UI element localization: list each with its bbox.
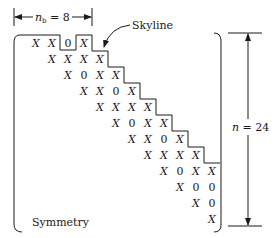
matrix-entry: X — [127, 85, 137, 98]
bandwidth-dimension: nb = 8 — [14, 8, 92, 26]
matrix-entry: X — [191, 165, 201, 178]
matrix-entry: X — [143, 133, 153, 146]
right-matrix-bracket — [112, 33, 120, 40]
right-bracket-visible — [114, 33, 121, 231]
matrix-entry: X — [95, 69, 105, 82]
matrix-entry: 0 — [81, 69, 88, 82]
matrix-entry: X — [79, 53, 89, 66]
matrix-entry: X — [111, 101, 121, 114]
matrix-entry: 0 — [209, 181, 216, 194]
matrix-entry: X — [191, 197, 201, 210]
matrix-entry: X — [143, 117, 153, 130]
matrix-entry: X — [159, 165, 169, 178]
matrix-entry: X — [175, 133, 185, 146]
matrix-entry: X — [191, 149, 201, 162]
matrix-entry: 0 — [177, 165, 184, 178]
right-bracket-line — [114, 33, 121, 40]
matrix-entry: 0 — [129, 117, 136, 130]
matrix-entries: XX0XXXXXX0XXXX0XXXXXX0XXXX0XXXXXX0XXX00X… — [31, 37, 217, 226]
matrix-entry: X — [127, 101, 137, 114]
matrix-entry: X — [175, 181, 185, 194]
matrix-entry: X — [143, 101, 153, 114]
matrix-entry: X — [175, 149, 185, 162]
bandwidth-label: nb = 8 — [35, 11, 70, 25]
matrix-entry: X — [207, 165, 217, 178]
matrix-entry: X — [79, 85, 89, 98]
matrix-entry: X — [143, 149, 153, 162]
matrix-entry: X — [63, 53, 73, 66]
matrix-entry: X — [159, 117, 169, 130]
matrix-entry: 0 — [113, 85, 120, 98]
matrix-entry: X — [95, 53, 105, 66]
matrix-entry: 0 — [193, 181, 200, 194]
order-dimension: n = 24 — [228, 33, 272, 226]
skyline-label: Skyline — [132, 19, 173, 32]
matrix-entry: X — [111, 69, 121, 82]
matrix-entry: X — [79, 37, 89, 50]
matrix-entry: 0 — [65, 37, 72, 50]
matrix-entry: X — [31, 37, 41, 50]
matrix-entry: X — [63, 69, 73, 82]
matrix-entry: 0 — [161, 133, 168, 146]
matrix-entry: X — [127, 133, 137, 146]
symmetry-label: Symmetry — [32, 216, 90, 229]
matrix-entry: X — [47, 53, 57, 66]
matrix-entry: X — [95, 85, 105, 98]
skyline-matrix-diagram: nb = 8 Skyline n = 24 XX0XXXXXX0XXXX0XXX… — [0, 0, 278, 238]
matrix-entry: X — [47, 37, 57, 50]
matrix-entry: 0 — [209, 197, 216, 210]
left-bracket — [14, 35, 22, 232]
order-label: n = 24 — [232, 121, 269, 134]
matrix-entry: X — [159, 149, 169, 162]
matrix-entry: X — [207, 213, 217, 226]
matrix-entry: X — [111, 117, 121, 130]
right-bracket — [110, 33, 121, 232]
matrix-entry: X — [95, 101, 105, 114]
